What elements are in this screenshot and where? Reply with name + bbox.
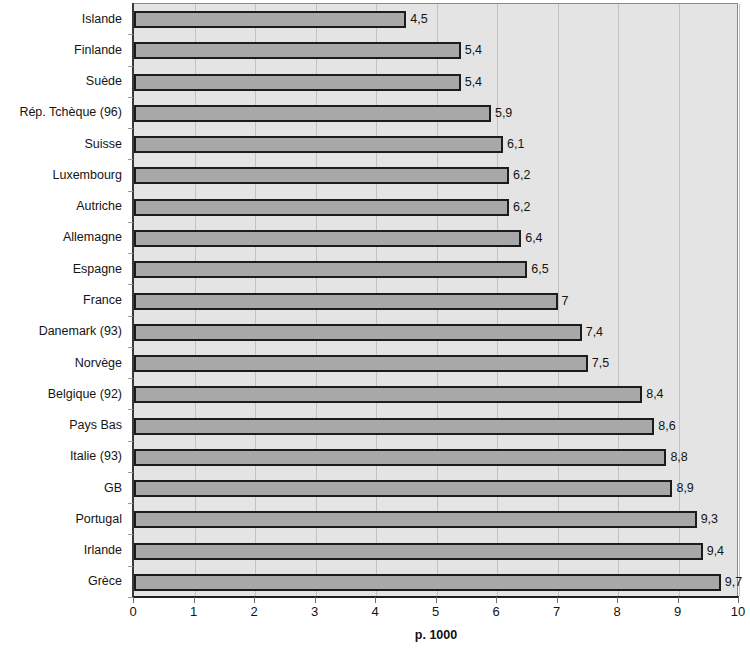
y-axis-tick bbox=[128, 378, 133, 379]
gridline bbox=[739, 4, 740, 596]
bar bbox=[134, 511, 697, 528]
category-label: Suède bbox=[86, 74, 122, 88]
y-axis-tick bbox=[128, 97, 133, 98]
bar-value-label: 5,4 bbox=[465, 75, 482, 90]
category-label: Autriche bbox=[76, 199, 122, 213]
bar-value-label: 8,8 bbox=[670, 450, 687, 465]
y-axis-tick bbox=[128, 566, 133, 567]
x-axis-tick-label: 5 bbox=[416, 604, 456, 619]
bar-value-label: 7 bbox=[562, 294, 569, 309]
gridline bbox=[618, 4, 619, 596]
bar-value-label: 4,5 bbox=[410, 12, 427, 27]
x-axis-tick bbox=[557, 597, 558, 603]
x-axis-tick bbox=[315, 597, 316, 603]
bar bbox=[134, 11, 406, 28]
y-axis-tick bbox=[128, 472, 133, 473]
bar bbox=[134, 480, 672, 497]
bar-value-label: 6,2 bbox=[513, 200, 530, 215]
x-axis-tick-label: 0 bbox=[113, 604, 153, 619]
bar bbox=[134, 105, 491, 122]
bar bbox=[134, 293, 558, 310]
category-label: Pays Bas bbox=[69, 418, 122, 432]
bar-value-label: 6,2 bbox=[513, 168, 530, 183]
category-label: Italie (93) bbox=[70, 449, 122, 463]
x-axis-tick bbox=[254, 597, 255, 603]
x-axis-tick-label: 4 bbox=[355, 604, 395, 619]
bar bbox=[134, 167, 509, 184]
gridline bbox=[558, 4, 559, 596]
bar bbox=[134, 261, 527, 278]
bar-value-label: 8,9 bbox=[676, 481, 693, 496]
y-axis-tick bbox=[128, 159, 133, 160]
bar bbox=[134, 42, 461, 59]
x-axis-tick-label: 1 bbox=[174, 604, 214, 619]
bar bbox=[134, 199, 509, 216]
y-axis-tick bbox=[128, 441, 133, 442]
bar-value-label: 7,5 bbox=[592, 356, 609, 371]
x-axis-title: p. 1000 bbox=[133, 628, 739, 642]
x-axis-tick bbox=[738, 597, 739, 603]
bar-value-label: 5,9 bbox=[495, 106, 512, 121]
bar-value-label: 6,1 bbox=[507, 137, 524, 152]
category-label: Belgique (92) bbox=[48, 387, 122, 401]
category-label: Luxembourg bbox=[53, 168, 123, 182]
bar bbox=[134, 324, 582, 341]
y-axis-tick bbox=[128, 34, 133, 35]
x-axis-tick-label: 6 bbox=[476, 604, 516, 619]
category-label: GB bbox=[104, 481, 122, 495]
x-axis-tick bbox=[617, 597, 618, 603]
y-axis-tick bbox=[128, 597, 133, 598]
category-label: Portugal bbox=[75, 512, 122, 526]
category-label: France bbox=[83, 293, 122, 307]
x-axis-tick-label: 7 bbox=[537, 604, 577, 619]
x-axis-tick-label: 9 bbox=[658, 604, 698, 619]
x-axis-tick bbox=[194, 597, 195, 603]
bar-value-label: 6,5 bbox=[531, 262, 548, 277]
y-axis-line bbox=[132, 3, 134, 598]
x-axis-tick-label: 10 bbox=[718, 604, 750, 619]
category-axis: IslandeFinlandeSuèdeRép. Tchèque (96)Sui… bbox=[0, 3, 128, 597]
category-label: Irlande bbox=[84, 543, 122, 557]
y-axis-tick bbox=[128, 347, 133, 348]
bar-value-label: 5,4 bbox=[465, 43, 482, 58]
bar bbox=[134, 136, 503, 153]
x-axis-tick bbox=[375, 597, 376, 603]
category-label: Danemark (93) bbox=[39, 324, 122, 338]
x-axis-tick bbox=[133, 597, 134, 603]
bar bbox=[134, 418, 654, 435]
x-axis-tick bbox=[436, 597, 437, 603]
gridline bbox=[679, 4, 680, 596]
bar bbox=[134, 386, 642, 403]
category-label: Allemagne bbox=[63, 230, 122, 244]
y-axis-tick bbox=[128, 128, 133, 129]
bar-value-label: 9,3 bbox=[701, 512, 718, 527]
bar bbox=[134, 449, 666, 466]
category-label: Espagne bbox=[73, 262, 122, 276]
bar-value-label: 9,7 bbox=[725, 575, 742, 590]
category-label: Finlande bbox=[74, 43, 122, 57]
bar-value-label: 8,6 bbox=[658, 419, 675, 434]
y-axis-tick bbox=[128, 534, 133, 535]
bar bbox=[134, 230, 521, 247]
category-label: Grèce bbox=[88, 574, 122, 588]
bar bbox=[134, 74, 461, 91]
bar bbox=[134, 574, 721, 591]
y-axis-tick bbox=[128, 316, 133, 317]
y-axis-tick bbox=[128, 284, 133, 285]
y-axis-tick bbox=[128, 222, 133, 223]
category-label: Suisse bbox=[84, 137, 122, 151]
x-axis-tick-label: 3 bbox=[295, 604, 335, 619]
y-axis-tick bbox=[128, 503, 133, 504]
bar-value-label: 7,4 bbox=[586, 325, 603, 340]
category-label: Rép. Tchèque (96) bbox=[19, 105, 122, 119]
y-axis-tick bbox=[128, 409, 133, 410]
y-axis-tick bbox=[128, 191, 133, 192]
bar-value-label: 8,4 bbox=[646, 387, 663, 402]
x-axis-tick bbox=[678, 597, 679, 603]
category-label: Islande bbox=[82, 12, 122, 26]
x-axis-tick bbox=[496, 597, 497, 603]
bar bbox=[134, 355, 588, 372]
y-axis-tick bbox=[128, 253, 133, 254]
plot-area: 4,55,45,45,96,16,26,26,46,577,47,58,48,6… bbox=[133, 3, 738, 597]
